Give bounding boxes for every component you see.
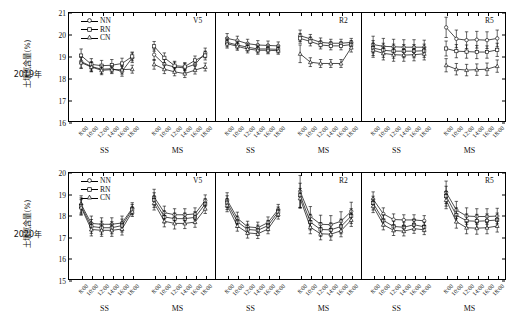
x-tick-mark [352,276,353,279]
x-tick-mark [269,173,270,176]
x-tick-mark [447,118,448,121]
x-tick-mark [133,118,134,121]
group-label-MS: MS [433,304,506,313]
x-tick-mark [415,118,416,121]
x-tick-mark [186,13,187,16]
legend-label: CN [100,34,110,43]
x-tick-mark [133,276,134,279]
x-tick-mark [425,118,426,121]
y-tick-mark [69,123,72,124]
x-tick-mark [82,13,83,16]
y-tick-label: 15 [59,277,67,286]
x-tick-mark [395,13,396,16]
legend: NNRNCN [81,17,111,43]
x-tick-mark [103,276,104,279]
x-tick-mark [332,276,333,279]
x-tick-mark [196,276,197,279]
x-tick-mark [206,276,207,279]
x-tick-mark [133,173,134,176]
x-tick-mark [415,173,416,176]
x-tick-mark [311,13,312,16]
series-layer [69,173,505,279]
x-tick-mark [415,13,416,16]
y-tick-label: 18 [59,212,67,221]
x-tick-mark [457,13,458,16]
x-tick-mark [425,13,426,16]
x-tick-mark [405,173,406,176]
x-tick-mark [155,276,156,279]
x-tick-mark [311,276,312,279]
x-tick-mark [352,118,353,121]
x-tick-mark [123,13,124,16]
x-tick-mark [176,173,177,176]
x-tick-mark [468,173,469,176]
y-tick-label: 18 [59,75,67,84]
y-tick-mark [502,281,505,282]
x-tick-mark [269,276,270,279]
group-label-SS: SS [360,304,433,313]
legend-item-CN: CN [81,34,111,43]
legend-marker-open-triangle [81,194,98,202]
x-tick-mark [206,13,207,16]
x-tick-mark [332,118,333,121]
stage-label-R5: R5 [485,176,494,185]
x-tick-mark [478,173,479,176]
legend-marker-open-square [81,186,98,194]
x-tick-mark [478,13,479,16]
x-tick-mark [206,173,207,176]
x-tick-mark [155,13,156,16]
group-label-MS: MS [141,146,214,155]
chart-row-2020: 2020年土壤氮含量(%)151617181920V5R2R5NNRNCN8:0… [0,166,511,329]
x-tick-mark [279,13,280,16]
x-tick-mark [279,276,280,279]
x-tick-mark [133,13,134,16]
x-tick-mark [238,13,239,16]
x-tick-mark [82,173,83,176]
x-tick-mark [186,118,187,121]
group-label-SS: SS [68,146,141,155]
x-tick-mark [425,276,426,279]
x-tick-mark [405,276,406,279]
x-tick-mark [374,276,375,279]
x-tick-mark [395,276,396,279]
x-tick-mark [176,276,177,279]
x-tick-mark [322,276,323,279]
x-tick-mark [155,173,156,176]
x-tick-mark [113,276,114,279]
legend-marker-open-square [81,26,98,34]
x-tick-mark [249,118,250,121]
group-label-SS: SS [68,304,141,313]
x-tick-mark [92,118,93,121]
x-tick-mark [488,276,489,279]
y-tick-label: 19 [59,53,67,62]
x-tick-mark [238,173,239,176]
x-tick-mark [488,173,489,176]
group-label-SS: SS [214,304,287,313]
x-tick-mark [342,118,343,121]
x-tick-mark [228,173,229,176]
x-tick-mark [279,118,280,121]
legend-marker-open-circle [81,17,98,25]
x-tick-mark [269,13,270,16]
y-tick-label: 20 [59,31,67,40]
x-tick-mark [447,276,448,279]
x-tick-mark [238,276,239,279]
x-tick-mark [113,13,114,16]
y-tick-mark [502,123,505,124]
x-tick-mark [259,13,260,16]
x-tick-mark [332,173,333,176]
x-tick-mark [352,173,353,176]
x-tick-mark [332,13,333,16]
x-tick-mark [498,118,499,121]
x-tick-mark [196,13,197,16]
x-tick-mark [311,173,312,176]
x-tick-mark [165,276,166,279]
x-tick-mark [123,173,124,176]
x-tick-mark [228,118,229,121]
y-tick-label: 16 [59,119,67,128]
x-tick-mark [176,118,177,121]
group-label-MS: MS [287,146,360,155]
x-tick-mark [165,118,166,121]
x-tick-mark [322,173,323,176]
y-tick-mark [69,281,72,282]
